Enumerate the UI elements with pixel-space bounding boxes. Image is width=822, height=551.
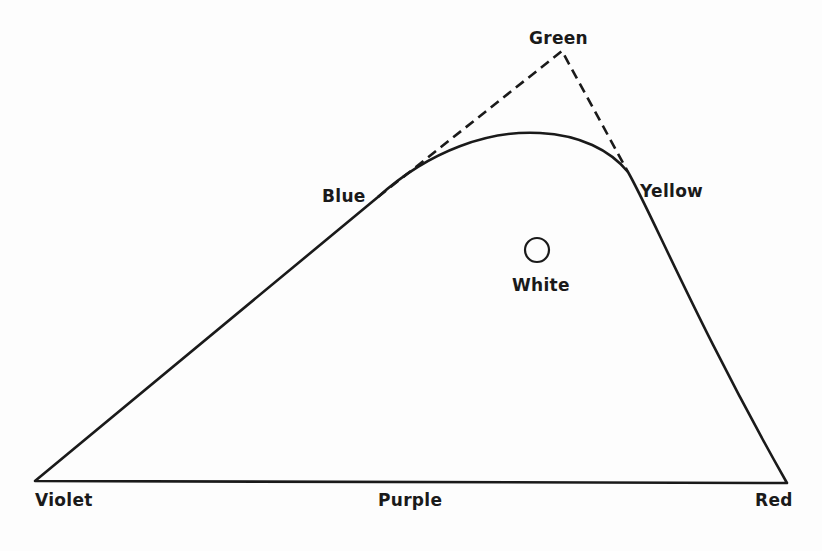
label-blue: Blue bbox=[322, 186, 366, 206]
label-purple: Purple bbox=[378, 490, 442, 510]
label-red: Red bbox=[755, 490, 793, 510]
diagram-canvas: Green Blue Yellow White Violet Purple Re… bbox=[0, 0, 822, 551]
gamut-diagram bbox=[0, 0, 822, 551]
label-violet: Violet bbox=[35, 490, 93, 510]
label-white: White bbox=[512, 275, 570, 295]
label-yellow: Yellow bbox=[640, 181, 703, 201]
white-point-circle bbox=[525, 238, 549, 262]
dashed-green-extension bbox=[378, 51, 628, 197]
label-green: Green bbox=[529, 28, 588, 48]
